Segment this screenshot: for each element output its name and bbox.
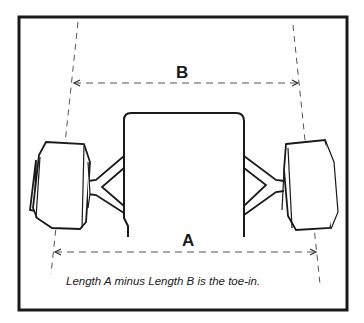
chassis-frame <box>124 113 244 237</box>
caption: Length A minus Length B is the toe-in. <box>66 275 260 287</box>
right-wheel <box>282 140 338 230</box>
left-suspension-arm <box>88 156 124 213</box>
right-suspension-arm <box>244 156 284 215</box>
label-a: A <box>182 231 194 251</box>
left-wheel <box>30 142 90 229</box>
label-b: B <box>176 63 188 83</box>
